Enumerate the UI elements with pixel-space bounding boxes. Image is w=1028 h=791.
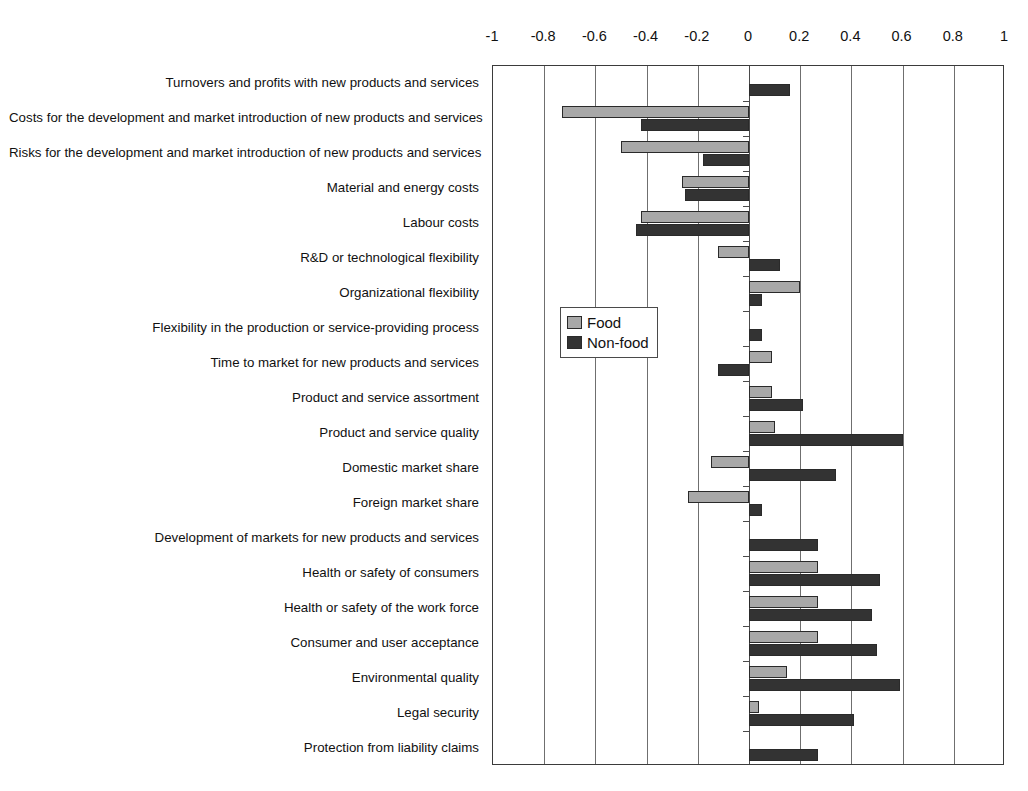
x-tick-label: 0.2 — [789, 28, 809, 44]
bar-food — [711, 456, 749, 468]
bar-nonfood — [718, 364, 749, 376]
bar-food — [749, 596, 818, 608]
x-axis-tick-labels: -1-0.8-0.6-0.4-0.200.20.40.60.81 — [0, 28, 1028, 48]
chart-row — [493, 486, 1003, 521]
chart-row — [493, 451, 1003, 486]
chart-row — [493, 381, 1003, 416]
chart-row — [493, 521, 1003, 556]
legend-swatch-nonfood — [567, 336, 582, 349]
category-label: Domestic market share — [9, 460, 479, 476]
category-label: Flexibility in the production or service… — [9, 320, 479, 336]
category-label: Health or safety of the work force — [9, 600, 479, 616]
category-label: Labour costs — [9, 215, 479, 231]
chart-row — [493, 731, 1003, 766]
legend-swatch-food — [567, 316, 582, 329]
bar-nonfood — [641, 119, 749, 131]
legend-entry: Non-food — [567, 332, 649, 352]
bar-nonfood — [636, 224, 749, 236]
chart-row — [493, 696, 1003, 731]
category-label: Environmental quality — [9, 670, 479, 686]
x-tick-label: -0.6 — [582, 28, 607, 44]
x-tick-label: 1 — [1000, 28, 1008, 44]
chart-row — [493, 101, 1003, 136]
legend-label: Food — [587, 314, 621, 331]
bar-food — [749, 701, 759, 713]
chart-legend: FoodNon-food — [560, 307, 658, 358]
bar-nonfood — [749, 329, 762, 341]
x-tick-label: -0.2 — [684, 28, 709, 44]
bar-nonfood — [749, 539, 818, 551]
bar-food — [688, 491, 749, 503]
bar-food — [749, 386, 772, 398]
chart-row — [493, 556, 1003, 591]
category-label: Risks for the development and market int… — [9, 145, 479, 161]
chart-row — [493, 626, 1003, 661]
category-label: R&D or technological flexibility — [9, 250, 479, 266]
category-label: Development of markets for new products … — [9, 530, 479, 546]
chart-row — [493, 591, 1003, 626]
bar-nonfood — [749, 609, 872, 621]
category-label: Material and energy costs — [9, 180, 479, 196]
bar-food — [749, 281, 800, 293]
bar-nonfood — [749, 679, 900, 691]
bar-food — [621, 141, 749, 153]
bar-food — [641, 211, 749, 223]
bar-nonfood — [749, 644, 877, 656]
bar-nonfood — [749, 749, 818, 761]
bar-nonfood — [749, 574, 880, 586]
x-tick-label: -1 — [486, 28, 499, 44]
legend-entry: Food — [567, 312, 649, 332]
bar-nonfood — [749, 504, 762, 516]
bar-nonfood — [749, 259, 780, 271]
chart-row — [493, 241, 1003, 276]
chart-row — [493, 136, 1003, 171]
x-tick-label: 0.6 — [892, 28, 912, 44]
bar-food — [749, 561, 818, 573]
category-label: Product and service assortment — [9, 390, 479, 406]
bar-nonfood — [749, 399, 803, 411]
category-label: Turnovers and profits with new products … — [9, 75, 479, 91]
category-label: Time to market for new products and serv… — [9, 355, 479, 371]
bar-nonfood — [749, 294, 762, 306]
category-label: Product and service quality — [9, 425, 479, 441]
legend-label: Non-food — [587, 334, 649, 351]
bar-food — [562, 106, 749, 118]
bar-food — [718, 246, 749, 258]
category-label: Health or safety of consumers — [9, 565, 479, 581]
category-label: Costs for the development and market int… — [9, 110, 479, 126]
chart-row — [493, 416, 1003, 451]
horizontal-bar-chart: -1-0.8-0.6-0.4-0.200.20.40.60.81 Turnove… — [0, 0, 1028, 791]
category-axis-labels: Turnovers and profits with new products … — [0, 65, 487, 765]
bar-nonfood — [685, 189, 749, 201]
category-label: Legal security — [9, 705, 479, 721]
bar-nonfood — [749, 84, 790, 96]
x-tick-label: -0.4 — [633, 28, 658, 44]
x-tick-label: 0.8 — [943, 28, 963, 44]
chart-row — [493, 66, 1003, 101]
bar-nonfood — [749, 434, 903, 446]
bar-nonfood — [749, 469, 836, 481]
plot-area — [492, 65, 1004, 765]
bar-food — [749, 351, 772, 363]
bar-nonfood — [749, 714, 854, 726]
bar-food — [749, 631, 818, 643]
x-tick-label: 0.4 — [840, 28, 860, 44]
chart-row — [493, 171, 1003, 206]
category-label: Organizational flexibility — [9, 285, 479, 301]
category-label: Foreign market share — [9, 495, 479, 511]
bar-food — [682, 176, 749, 188]
x-tick-label: -0.8 — [531, 28, 556, 44]
x-tick-label: 0 — [744, 28, 752, 44]
category-label: Consumer and user acceptance — [9, 635, 479, 651]
bar-nonfood — [703, 154, 749, 166]
category-label: Protection from liability claims — [9, 740, 479, 756]
chart-row — [493, 276, 1003, 311]
bar-food — [749, 666, 787, 678]
bar-food — [749, 421, 775, 433]
chart-row — [493, 206, 1003, 241]
chart-row — [493, 661, 1003, 696]
